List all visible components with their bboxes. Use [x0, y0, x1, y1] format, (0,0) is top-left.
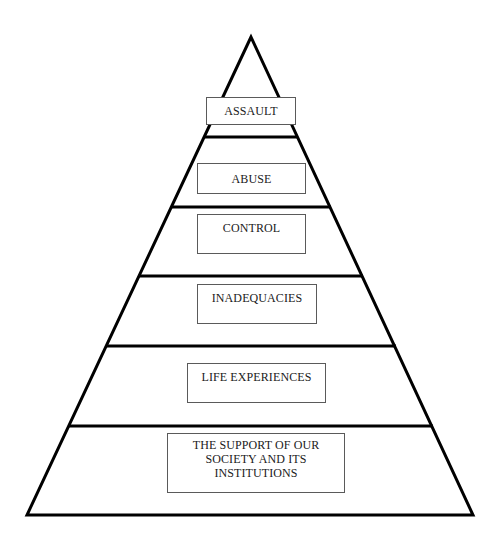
- level-box-control: CONTROL: [197, 214, 306, 254]
- level-label-abuse: ABUSE: [232, 172, 272, 186]
- level-box-society-support: THE SUPPORT OF OUR SOCIETY AND ITS INSTI…: [167, 433, 345, 493]
- level-label-life-experiences: LIFE EXPERIENCES: [188, 370, 325, 384]
- level-box-life-experiences: LIFE EXPERIENCES: [187, 363, 326, 403]
- level-box-inadequacies: INADEQUACIES: [197, 284, 317, 324]
- level-label-inadequacies: INADEQUACIES: [198, 291, 316, 305]
- level-box-assault: ASSAULT: [206, 97, 296, 125]
- level-label-control: CONTROL: [198, 221, 305, 235]
- level-label-society-support: THE SUPPORT OF OUR SOCIETY AND ITS INSTI…: [168, 438, 344, 480]
- level-box-abuse: ABUSE: [197, 163, 306, 194]
- level-label-assault: ASSAULT: [224, 104, 278, 118]
